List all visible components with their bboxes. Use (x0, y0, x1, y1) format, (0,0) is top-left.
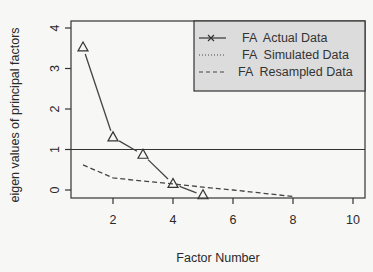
x-tick-label: 6 (230, 213, 237, 227)
series-line-resampled (83, 165, 293, 197)
series-segment-actual (180, 186, 197, 192)
y-tick-label: 2 (48, 105, 62, 112)
data-point-actual (168, 178, 178, 187)
series-segment-actual (85, 54, 111, 131)
x-tick-label: 10 (346, 213, 360, 227)
series-segment-actual (148, 160, 168, 179)
legend-label: FA Simulated Data (242, 48, 349, 62)
legend-label: FA Resampled Data (238, 65, 353, 79)
data-point-actual (78, 42, 88, 51)
y-tick-label: 4 (48, 24, 62, 31)
x-tick-label: 4 (170, 213, 177, 227)
x-tick-label: 8 (290, 213, 297, 227)
legend: FA Actual DataFA Simulated DataFA Resamp… (194, 21, 365, 91)
data-point-actual (138, 149, 148, 158)
scree-plot: 01234246810 FA Actual DataFA Simulated D… (0, 0, 373, 272)
x-axis-title: Factor Number (176, 251, 259, 265)
legend-label: FA Actual Data (242, 31, 328, 45)
y-axis-title: eigen values of principal factors (8, 27, 22, 202)
y-tick-label: 0 (48, 186, 62, 193)
x-tick-label: 2 (110, 213, 117, 227)
data-point-actual (108, 132, 118, 141)
y-tick-label: 3 (48, 65, 62, 72)
y-tick-label: 1 (48, 146, 62, 153)
